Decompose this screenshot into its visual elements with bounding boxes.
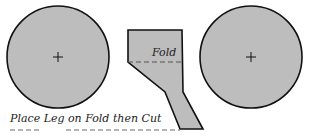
right-circle-piece (200, 6, 302, 108)
pattern-diagram: Fold Place Leg on Fold then Cut (0, 0, 309, 137)
left-circle-piece (7, 6, 109, 108)
fold-label: Fold (151, 46, 176, 59)
instruction-label: Place Leg on Fold then Cut (9, 112, 162, 125)
